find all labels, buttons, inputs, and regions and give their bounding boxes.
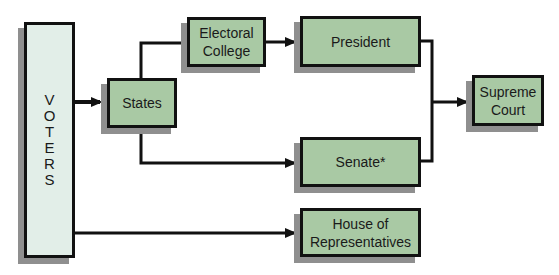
line-president-to-bracket [420,41,432,161]
node-senate: Senate* [300,137,421,187]
voters-label: V O T E R S [44,92,56,188]
node-voters: V O T E R S [24,22,75,258]
line-states-to-electoral-college [141,43,187,78]
senate-label: Senate* [336,153,386,171]
node-supreme-court: Supreme Court [472,75,544,126]
house-label-line2: Representatives [310,233,411,251]
node-president: President [300,16,421,67]
arrow-states-to-senate [141,127,294,163]
house-label-line1: House of [332,215,388,233]
connectors [0,0,559,275]
node-house-of-representatives: House of Representatives [300,208,421,257]
election-flow-diagram: V O T E R S States Electoral College Pre… [0,0,559,275]
node-states: States [107,78,177,128]
supreme-court-label-line1: Supreme [480,83,537,101]
electoral-college-label-line2: College [203,42,250,60]
electoral-college-label-line1: Electoral [199,24,253,42]
supreme-court-label-line2: Court [491,101,525,119]
president-label: President [331,33,390,51]
states-label: States [122,94,162,112]
node-electoral-college: Electoral College [187,17,266,67]
